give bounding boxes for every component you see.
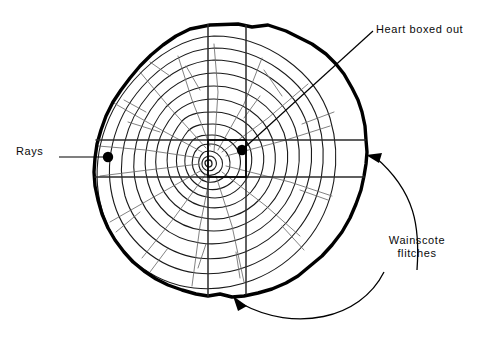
growth-ring-9 [121,60,311,259]
label-wainscote-flitches: Wainscote flitches [371,234,463,260]
ray-wnw [112,102,202,152]
ray-ne [222,84,308,152]
check-outer-ne [264,70,282,96]
growth-ring-3 [185,135,241,190]
heart-dot [237,145,247,155]
growth-ring-pith-outer [202,156,216,171]
ray-nne [218,58,262,150]
label-rays: Rays [16,145,43,158]
ray-wsw [100,164,200,176]
ray-nnw [178,56,210,146]
label-wainscote-line2: flitches [371,247,463,260]
check-mid-s [198,244,206,268]
check-outer-e [302,112,334,124]
check-outer-ssw [150,248,168,272]
log-cross-section-diagram [0,0,499,342]
check-outer-sw [116,212,140,232]
label-wainscote-line1: Wainscote [371,234,463,247]
wainscote-arrow-bottom-head [233,296,247,311]
ray-sw [110,170,202,222]
wainscote-arrow-bottom [242,272,384,319]
rays-dot [103,152,113,162]
label-heart-boxed-out: Heart boxed out [376,23,463,36]
